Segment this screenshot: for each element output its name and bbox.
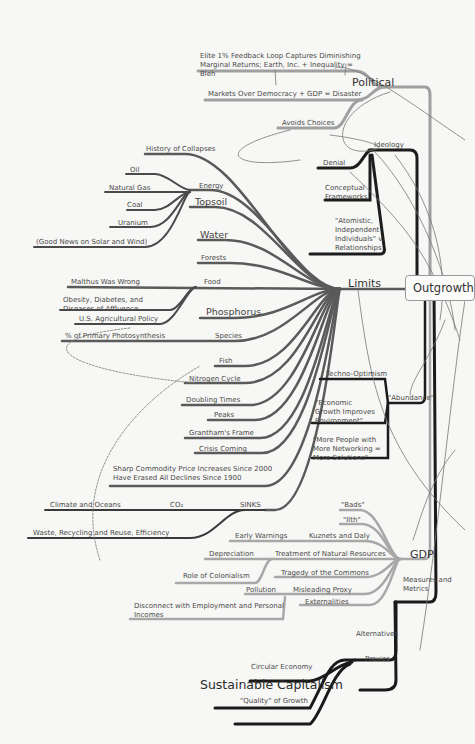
node-species[interactable]: Species xyxy=(215,332,242,341)
node-phosphorus[interactable]: Phosphorus xyxy=(206,306,261,317)
node-climate-and-oceans[interactable]: Climate and Oceans xyxy=(50,501,121,510)
node-obesity-diabetes[interactable]: Obesity, Diabetes, and Diseases of Afflu… xyxy=(63,296,158,314)
political-branch-lines xyxy=(198,71,430,290)
node-topsoil[interactable]: Topsoil xyxy=(195,196,227,207)
central-node-outgrowth[interactable]: Outgrowth xyxy=(405,275,475,301)
node-tragedy-of-commons[interactable]: Tragedy of the Commons xyxy=(281,569,369,578)
node-treatment-natural-resources[interactable]: Treatment of Natural Resources xyxy=(275,550,386,559)
node-food[interactable]: Food xyxy=(204,278,221,287)
node-measures-and-metrics[interactable]: Measures and Metrics xyxy=(403,576,453,594)
node-ideology[interactable]: Ideology xyxy=(374,141,404,150)
node-disconnect-employment[interactable]: Disconnect with Employment and Personal … xyxy=(134,602,284,620)
node-kuznets-and-daly[interactable]: Kuznets and Daly xyxy=(309,532,370,541)
node-natural-gas[interactable]: Natural Gas xyxy=(109,184,150,193)
node-crisis-coming[interactable]: Crisis Coming xyxy=(199,445,247,454)
gdp-branch-lines xyxy=(130,290,430,619)
node-conceptual-frameworks[interactable]: Conceptual Frameworks xyxy=(325,184,380,202)
node-sustainable-capitalism[interactable]: Sustainable Capitalism xyxy=(200,678,343,692)
node-malthus-was-wrong[interactable]: Malthus Was Wrong xyxy=(71,278,140,287)
central-node-label: Outgrowth xyxy=(413,281,474,295)
node-abundance[interactable]: "Abundance" xyxy=(388,394,434,403)
node-good-news-solar-wind[interactable]: (Good News on Solar and Wind) xyxy=(36,238,147,247)
node-more-people-networking[interactable]: "More People with More Networking = More… xyxy=(313,436,381,463)
node-markets-over-democracy[interactable]: Markets Over Democracy + GDP = Disaster xyxy=(208,90,361,99)
node-misleading-proxy[interactable]: Misleading Proxy xyxy=(293,586,352,595)
node-techno-optimism[interactable]: Techno-Optimism xyxy=(326,370,387,379)
node-pollution[interactable]: Pollution xyxy=(246,586,276,595)
node-water[interactable]: Water xyxy=(200,229,228,240)
node-commodity-price-increases[interactable]: Sharp Commodity Price Increases Since 20… xyxy=(113,465,273,483)
node-energy[interactable]: Energy xyxy=(199,182,224,191)
node-co2[interactable]: CO₂ xyxy=(170,501,183,510)
node-primary-photosynthesis[interactable]: % of Primary Photosynthesis xyxy=(65,332,165,341)
node-quality-of-growth[interactable]: "Quality" of Growth xyxy=(240,697,308,706)
node-denial[interactable]: Denial xyxy=(323,159,345,168)
node-alternatives[interactable]: Alternatives xyxy=(356,630,398,639)
node-externalities[interactable]: Externalities xyxy=(305,598,349,607)
relationship-arrows xyxy=(66,64,465,650)
node-avoids-choices[interactable]: Avoids Choices xyxy=(282,119,334,128)
node-coal[interactable]: Coal xyxy=(127,201,142,210)
node-elite-feedback-loop[interactable]: Elite 1% Feedback Loop Captures Diminish… xyxy=(200,52,370,79)
node-waste-recycling[interactable]: Waste, Recycling and Reuse, Efficiency xyxy=(33,529,169,538)
node-granthams-frame[interactable]: Grantham's Frame xyxy=(189,429,254,438)
node-proxies[interactable]: Proxies xyxy=(365,655,390,664)
node-bads[interactable]: "Bads" xyxy=(341,501,365,510)
node-us-agricultural-policy[interactable]: U.S. Agricultural Policy xyxy=(79,315,158,324)
node-ilth[interactable]: "Ilth" xyxy=(343,516,361,525)
node-history-of-collapses[interactable]: History of Collapses xyxy=(146,145,216,154)
node-atomistic-individuals[interactable]: "Atomistic, Independent Individuals" v. … xyxy=(335,217,397,253)
node-oil[interactable]: Oil xyxy=(130,166,139,175)
node-early-warnings[interactable]: Early Warnings xyxy=(235,532,287,541)
node-sinks[interactable]: SINKS xyxy=(240,501,261,510)
node-forests[interactable]: Forests xyxy=(201,254,226,263)
node-economic-growth-improves[interactable]: "Economic Growth Improves Environment" xyxy=(315,399,375,426)
node-uranium[interactable]: Uranium xyxy=(118,219,148,228)
node-role-of-colonialism[interactable]: Role of Colonialism xyxy=(183,572,250,581)
node-doubling-times[interactable]: Doubling Times xyxy=(186,396,240,405)
node-depreciation[interactable]: Depreciation xyxy=(209,550,254,559)
node-nitrogen-cycle[interactable]: Nitrogen Cycle xyxy=(189,375,240,384)
node-circular-economy[interactable]: Circular Economy xyxy=(251,663,312,672)
node-gdp[interactable]: GDP xyxy=(410,548,434,561)
node-fish[interactable]: Fish xyxy=(219,357,233,366)
node-peaks[interactable]: Peaks xyxy=(214,411,234,420)
node-limits[interactable]: Limits xyxy=(348,277,381,290)
